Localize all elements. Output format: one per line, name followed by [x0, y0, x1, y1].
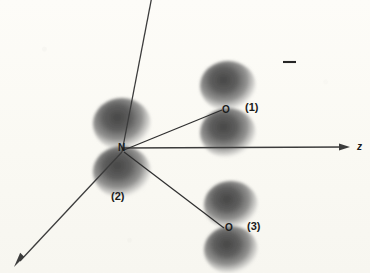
figure-canvas — [0, 0, 370, 273]
atom-label-nitrogen: N — [118, 143, 125, 153]
z-axis-arrowhead — [339, 143, 350, 150]
molecular-orbital-figure: N (2) O (1) O (3) z — [0, 0, 370, 273]
z-axis-line — [122, 147, 346, 148]
x-axis-line — [20, 152, 122, 261]
atom-label-oxygen-1: O — [222, 105, 230, 115]
atom-index-label-1: (1) — [245, 102, 258, 113]
atom-label-oxygen-3: O — [225, 223, 233, 233]
lobe-oxygen3-lower — [204, 226, 258, 273]
axis-label-z: z — [357, 142, 362, 152]
atom-index-label-3: (3) — [247, 221, 260, 232]
x-axis-arrowhead — [14, 253, 24, 267]
atom-index-label-2: (2) — [111, 191, 124, 202]
